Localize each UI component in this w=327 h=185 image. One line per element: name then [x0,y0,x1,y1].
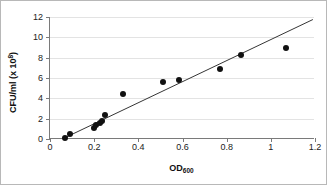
x-tick-label: 0.2 [88,143,101,152]
y-tick-label: 4 [38,94,43,103]
y-axis-title-superscript: 8 [7,55,14,59]
y-tick-label: 8 [38,53,43,62]
y-tick-label: 6 [38,74,43,83]
y-tick-label: 12 [33,13,43,22]
x-tick-label: 0.6 [176,143,189,152]
x-axis-title: OD600 [49,164,314,173]
y-tick-label: 0 [38,135,43,144]
y-tick-label: 10 [33,33,43,42]
data-point [217,66,223,72]
x-axis-title-subscript: 600 [183,167,194,174]
x-tick-label: 0.8 [220,143,233,152]
data-point [67,131,73,137]
x-tick-label: 1 [268,143,273,152]
chart-screenshot: 024681012 00.20.40.60.811.2 OD600 CFU/ml… [0,0,327,185]
data-point [102,112,108,118]
data-point [160,79,166,85]
x-tick-label: 0 [47,143,52,152]
data-point [283,45,289,51]
x-tick-label: 0.4 [132,143,145,152]
x-tick-label: 1.2 [309,143,322,152]
y-tick-label: 2 [38,114,43,123]
plot-area: 024681012 00.20.40.60.811.2 [49,17,314,139]
y-axis-title: CFU/ml (x 108) [9,22,18,144]
trend-line [50,17,314,138]
